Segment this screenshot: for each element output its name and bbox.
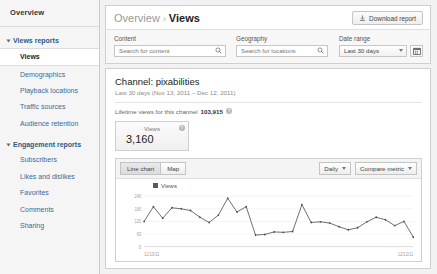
sidebar-item-playback-locations[interactable]: Playback locations (0, 83, 99, 99)
views-line-chart[interactable]: 06012018024011/13/1112/12/11 (120, 193, 417, 260)
sidebar-section-views-reports[interactable]: Views reports (0, 33, 99, 48)
compare-metric-select[interactable]: Compare metric (355, 162, 417, 175)
lifetime-views-label: Lifetime views for this channel (115, 108, 198, 115)
chevron-down-icon (7, 39, 11, 42)
sidebar-section-label: Engagement reports (13, 141, 81, 148)
geography-filter-label: Geography (236, 35, 328, 42)
svg-text:12/12/11: 12/12/11 (398, 252, 414, 257)
breadcrumb: Overview›Views (114, 12, 200, 24)
metric-card-views[interactable]: ? Views 3,160 (115, 121, 189, 151)
view-mode-line-chart[interactable]: Line chart (120, 162, 161, 175)
compare-metric-label: Compare metric (360, 165, 404, 172)
page-title: Channel: pixabilities (115, 76, 422, 87)
sidebar-item-views[interactable]: Views (0, 48, 99, 66)
content-filter-label: Content (114, 35, 226, 42)
chevron-down-icon (408, 167, 412, 170)
chart-container: Line chart Map Daily Compare metric (115, 158, 422, 263)
metric-card-label: Views (122, 126, 182, 132)
info-icon[interactable]: ? (226, 108, 233, 115)
date-range-select[interactable]: Last 30 days (339, 45, 407, 57)
sidebar-item-demographics[interactable]: Demographics (0, 66, 99, 82)
svg-text:240: 240 (135, 193, 142, 198)
chart-plot: 06012018024011/13/1112/12/11 (120, 193, 417, 260)
report-divider (115, 102, 422, 103)
sidebar-item-comments[interactable]: Comments (0, 201, 99, 217)
breadcrumb-parent[interactable]: Overview (114, 12, 160, 24)
breadcrumb-current: Views (169, 12, 200, 24)
report-subtitle: Last 30 days (Nov 13, 2011 – Dec 12, 201… (115, 89, 422, 96)
filter-geography: Geography (236, 35, 328, 57)
date-range-value: Last 30 days (344, 47, 379, 54)
report-panel: Channel: pixabilities Last 30 days (Nov … (105, 68, 431, 270)
sidebar-item-traffic-sources[interactable]: Traffic sources (0, 99, 99, 115)
sidebar-item-favorites[interactable]: Favorites (0, 185, 99, 201)
svg-text:11/13/11: 11/13/11 (144, 252, 160, 257)
date-range-label: Date range (339, 35, 423, 42)
download-report-label: Download report (369, 15, 416, 22)
date-range-row: Last 30 days (339, 45, 423, 57)
content-search-input[interactable] (119, 47, 215, 54)
sidebar: Overview Views reports Views Demographic… (0, 0, 100, 274)
sidebar-item-audience-retention[interactable]: Audience retention (0, 116, 99, 132)
svg-text:0: 0 (139, 244, 142, 249)
sidebar-item-sharing[interactable]: Sharing (0, 218, 99, 234)
chart-view-mode-toggle: Line chart Map (120, 162, 186, 175)
sidebar-item-overview[interactable]: Overview (0, 8, 99, 26)
header-panel: Overview›Views Download report Content (105, 5, 431, 64)
chart-legend: Views (120, 183, 417, 189)
sidebar-item-likes-and-dislikes[interactable]: Likes and dislikes (0, 169, 99, 185)
analytics-page: Overview Views reports Views Demographic… (0, 0, 437, 274)
filter-date-range: Date range Last 30 days (339, 35, 423, 57)
download-icon (359, 15, 366, 22)
svg-text:180: 180 (135, 206, 142, 211)
lifetime-views-row: Lifetime views for this channel 103,915 … (115, 108, 422, 115)
filter-bar: Content Geography (106, 29, 430, 63)
chart-right-controls: Daily Compare metric (319, 162, 417, 175)
search-icon (215, 47, 222, 54)
svg-text:120: 120 (135, 219, 142, 224)
view-mode-map[interactable]: Map (161, 162, 186, 175)
legend-swatch-views (153, 183, 158, 188)
calendar-icon (413, 47, 421, 55)
geography-search-input[interactable] (241, 47, 317, 54)
granularity-select[interactable]: Daily (319, 162, 351, 175)
content-search-box[interactable] (114, 45, 226, 57)
geography-search-box[interactable] (236, 45, 328, 57)
search-icon (317, 47, 324, 54)
svg-text:60: 60 (137, 231, 142, 236)
info-icon[interactable]: ? (179, 125, 186, 132)
breadcrumb-separator: › (163, 14, 166, 24)
metric-card-value: 3,160 (122, 133, 182, 145)
chart-area: Views 06012018024011/13/1112/12/11 (116, 179, 421, 262)
chevron-down-icon (399, 49, 403, 52)
lifetime-views-value: 103,915 (201, 108, 223, 115)
sidebar-section-label: Views reports (13, 37, 59, 44)
header-row: Overview›Views Download report (106, 6, 430, 29)
sidebar-item-subscribers[interactable]: Subscribers (0, 152, 99, 168)
chart-toolbar: Line chart Map Daily Compare metric (116, 159, 421, 179)
chevron-down-icon (342, 167, 346, 170)
sidebar-divider (0, 26, 99, 27)
legend-label-views: Views (161, 183, 177, 189)
granularity-value: Daily (324, 165, 338, 172)
calendar-button[interactable] (410, 45, 423, 57)
sidebar-section-engagement-reports[interactable]: Engagement reports (0, 137, 99, 152)
download-report-button[interactable]: Download report (352, 11, 423, 25)
chevron-down-icon (7, 143, 11, 146)
filter-content: Content (114, 35, 226, 57)
main-content: Overview›Views Download report Content (100, 0, 437, 274)
